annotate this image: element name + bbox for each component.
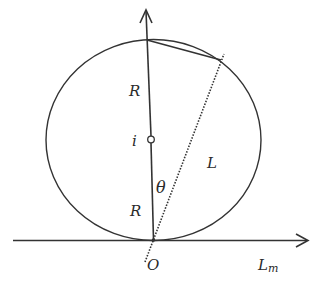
label-origin-O: O xyxy=(147,256,159,274)
geometry-diagram: R i θ R L O Lm xyxy=(0,0,329,288)
label-horizontal-axis-Lm: Lm xyxy=(257,256,278,275)
label-Lm-main: L xyxy=(257,256,268,274)
label-line-L: L xyxy=(206,154,217,172)
vertical-axis-upper xyxy=(146,11,151,136)
vertical-axis-lower xyxy=(151,143,154,240)
label-theta: θ xyxy=(156,178,166,197)
center-point-i xyxy=(148,136,155,143)
label-upper-radius: R xyxy=(128,82,140,100)
label-lower-radius: R xyxy=(129,202,141,220)
origin-point xyxy=(152,238,156,242)
label-center-i: i xyxy=(132,132,137,150)
label-Lm-subscript: m xyxy=(268,262,278,275)
